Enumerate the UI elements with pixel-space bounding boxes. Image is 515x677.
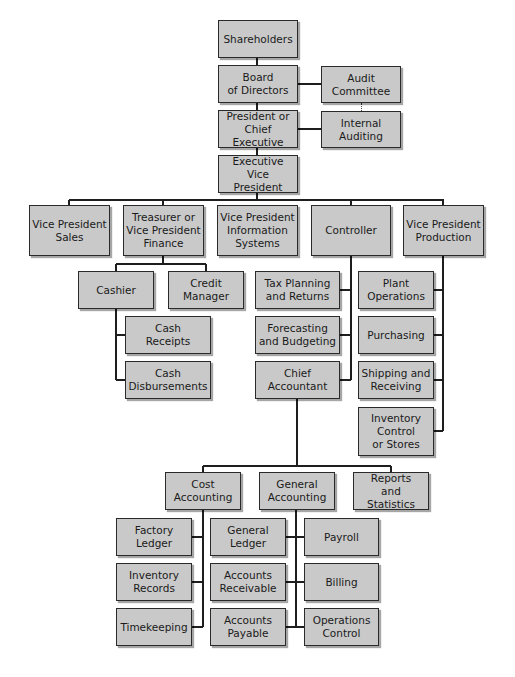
connector-line: [442, 256, 444, 431]
org-node-cash-receipts: Cash Receipts: [125, 316, 211, 354]
connector-line: [340, 289, 351, 291]
org-node-ap: Accounts Payable: [210, 608, 286, 646]
connector-line: [192, 536, 203, 538]
org-node-ar: Accounts Receivable: [210, 563, 286, 601]
org-node-timekeeping: Timekeeping: [116, 608, 192, 646]
connector-line: [286, 626, 304, 628]
org-node-gen-ledger: General Ledger: [210, 518, 286, 556]
org-node-payroll: Payroll: [304, 518, 379, 556]
org-node-billing: Billing: [304, 563, 379, 601]
org-node-cost-acct: Cost Accounting: [165, 472, 241, 510]
connector-line: [69, 199, 444, 201]
org-node-reports: Reports and Statistics: [353, 472, 429, 510]
connector-line: [286, 536, 304, 538]
org-node-internal-audit: Internal Auditing: [321, 111, 401, 148]
org-node-president: President or Chief Executive: [218, 110, 298, 148]
connector-line: [340, 379, 351, 381]
org-node-inventory-ctrl: Inventory Control or Stores: [358, 407, 434, 456]
connector-line: [350, 256, 352, 380]
org-node-factory: Factory Ledger: [116, 518, 192, 556]
org-chart: ShareholdersBoard of DirectorsAudit Comm…: [0, 0, 515, 677]
connector-line: [115, 264, 117, 271]
connector-line: [116, 263, 206, 265]
connector-line: [115, 309, 117, 380]
org-node-gen-acct: General Accounting: [259, 472, 335, 510]
connector-line: [298, 128, 321, 130]
connector-line: [296, 399, 298, 466]
org-node-board: Board of Directors: [218, 65, 298, 103]
org-node-cash-disb: Cash Disbursements: [125, 361, 211, 399]
connector-line: [434, 379, 443, 381]
connector-line: [286, 581, 304, 583]
connector-line: [205, 264, 207, 271]
dotted-connector-line: [361, 103, 362, 111]
org-node-purchasing: Purchasing: [358, 316, 434, 354]
connector-line: [202, 510, 204, 627]
connector-line: [434, 430, 443, 432]
org-node-plant: Plant Operations: [358, 271, 434, 309]
connector-line: [298, 83, 321, 85]
connector-line: [192, 581, 203, 583]
org-node-vp-prod: Vice President Production: [403, 205, 484, 256]
org-node-evp: Executive Vice President: [218, 155, 298, 193]
org-node-chief-acct: Chief Accountant: [255, 361, 340, 399]
connector-line: [116, 379, 125, 381]
org-node-vp-sales: Vice President Sales: [29, 205, 110, 256]
org-node-ops-control: Operations Control: [304, 608, 379, 646]
connector-line: [434, 289, 443, 291]
connector-line: [295, 510, 297, 627]
connector-line: [192, 626, 203, 628]
org-node-cashier: Cashier: [78, 271, 154, 309]
connector-line: [434, 334, 443, 336]
connector-line: [116, 334, 125, 336]
org-node-vp-is: Vice President Information Systems: [217, 205, 298, 256]
org-node-forecast: Forecasting and Budgeting: [255, 316, 340, 354]
org-node-controller: Controller: [311, 205, 391, 256]
org-node-inv-records: Inventory Records: [116, 563, 192, 601]
org-node-treasurer: Treasurer or Vice President Finance: [123, 205, 204, 256]
connector-line: [203, 465, 391, 467]
org-node-tax: Tax Planning and Returns: [255, 271, 340, 309]
connector-line: [340, 334, 351, 336]
org-node-shipping: Shipping and Receiving: [358, 361, 434, 399]
org-node-audit: Audit Committee: [321, 66, 401, 103]
org-node-shareholders: Shareholders: [218, 20, 298, 58]
org-node-credit: Credit Manager: [168, 271, 244, 309]
